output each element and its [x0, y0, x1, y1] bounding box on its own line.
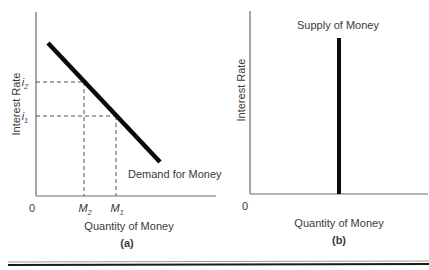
- panel-b-origin-label: 0: [242, 200, 248, 212]
- panel-b-y-axis-label: Interest Rate: [235, 59, 247, 122]
- demand-for-money-label: Demand for Money: [128, 168, 222, 180]
- m2-label: M2: [78, 202, 91, 216]
- panel-a-y-axis-label: Interest Rate: [10, 73, 22, 136]
- i2-label: i2: [22, 76, 28, 90]
- supply-of-money-label: Supply of Money: [297, 19, 379, 31]
- figure: Interest Rate i2 i1 0 M2 M1 Demand for M…: [0, 0, 429, 270]
- demand-for-money-curve: [48, 43, 160, 162]
- bottom-rule: [8, 261, 429, 265]
- panel-b-caption: (b): [332, 234, 346, 246]
- m1-label: M1: [110, 202, 123, 216]
- panel-a-x-axis-label: Quantity of Money: [84, 220, 174, 232]
- panel-b: Interest Rate Supply of Money 0 Quantity…: [235, 11, 428, 246]
- i1-label: i1: [22, 110, 28, 124]
- panel-a: Interest Rate i2 i1 0 M2 M1 Demand for M…: [10, 12, 222, 249]
- panel-b-x-axis-label: Quantity of Money: [294, 217, 384, 229]
- panel-a-origin-label: 0: [29, 202, 35, 214]
- panel-a-caption: (a): [120, 237, 134, 249]
